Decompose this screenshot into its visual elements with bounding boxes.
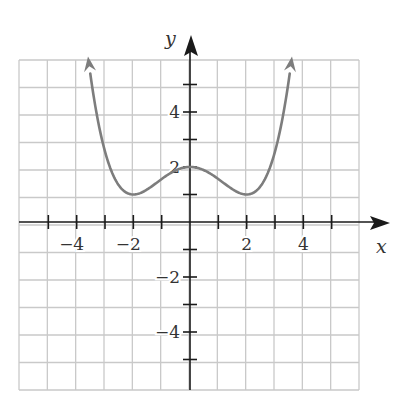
x-axis-arrow-icon [370,216,390,230]
y-tick-label: −2 [155,267,180,287]
curve-arrow-icon [284,57,296,73]
x-axis-label: x [376,235,387,257]
axes [19,35,390,390]
function-graph: −4−224 −4−224 x y [0,0,405,407]
y-axis-arrow-icon [184,35,198,56]
y-tick-label: 4 [169,102,180,122]
x-tick-label: 4 [298,234,309,254]
grid-lines [19,60,359,390]
y-tick-label: −4 [155,322,180,342]
x-tick-labels: −4−224 [59,234,309,254]
y-axis-label: y [164,27,176,49]
curve-arrow-icon [84,57,96,73]
x-tick-label: −4 [59,234,84,254]
x-tick-label: −2 [116,234,141,254]
x-tick-label: 2 [241,234,252,254]
